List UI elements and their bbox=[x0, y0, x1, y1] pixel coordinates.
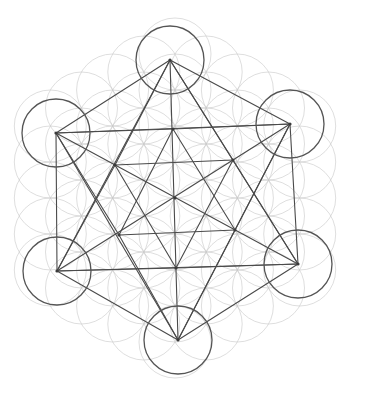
cube-edge bbox=[56, 133, 178, 340]
vertex-dot-inner-upper-left bbox=[113, 163, 116, 166]
cube-edge bbox=[115, 165, 176, 268]
cube-edge bbox=[57, 271, 178, 340]
vertex-dot-inner-bottom bbox=[174, 266, 177, 269]
vertex-dot-lower-right bbox=[296, 262, 299, 265]
vertex-dot-upper-right bbox=[288, 122, 291, 125]
cube-edges bbox=[56, 60, 298, 340]
cube-edge bbox=[170, 60, 290, 124]
vertex-dot-top bbox=[168, 58, 171, 61]
metatrons-cube-drawing bbox=[0, 0, 382, 399]
vertex-dot-inner-lower-right bbox=[233, 228, 236, 231]
vertex-dot-bottom bbox=[176, 338, 179, 341]
vertex-dot-inner-top bbox=[171, 127, 174, 130]
vertex-dot-lower-left bbox=[55, 269, 58, 272]
vertex-dot-center bbox=[173, 196, 176, 199]
cube-edge bbox=[178, 264, 298, 340]
vertex-dot-inner-lower-left bbox=[117, 233, 120, 236]
cube-edge bbox=[56, 60, 170, 133]
vertex-dot-inner-upper-right bbox=[231, 158, 234, 161]
vertex-dot-upper-left bbox=[54, 131, 57, 134]
cube-edge bbox=[173, 124, 290, 129]
cube-edge bbox=[170, 60, 178, 340]
